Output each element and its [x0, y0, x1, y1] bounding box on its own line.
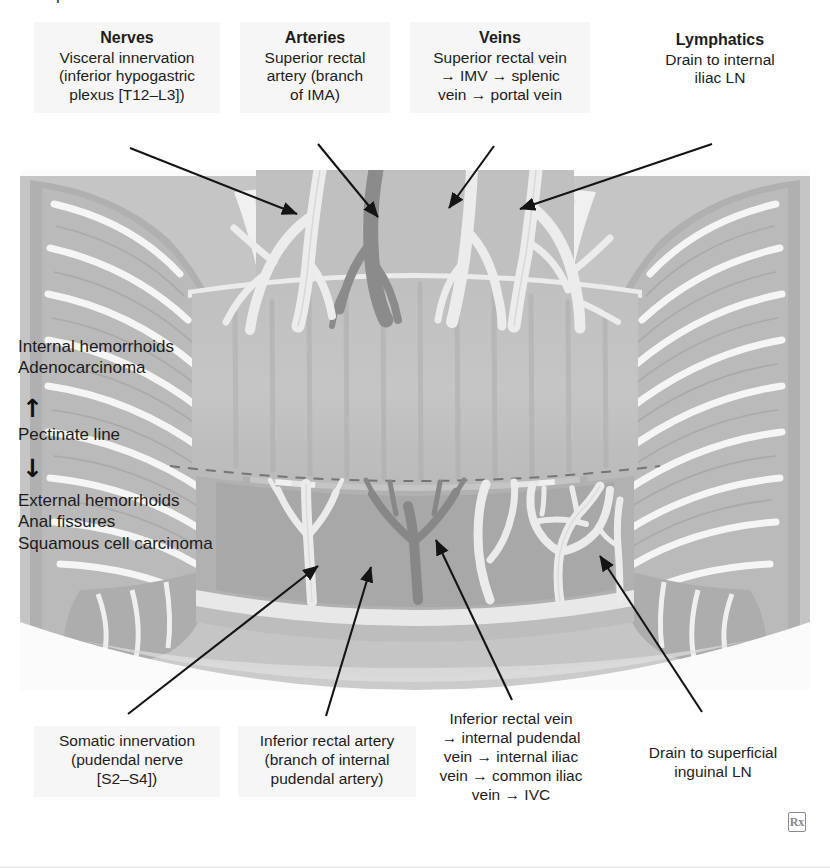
- figure-root: l: [0, 0, 830, 868]
- label-nerves: Nerves Visceral innervation (inferior hy…: [34, 22, 220, 113]
- label-inferior-rectal-artery-line-3: pudendal artery): [242, 770, 412, 789]
- label-inferior-rectal-vein-line-3: vein → internal iliac: [424, 748, 598, 767]
- annotation-anal-fissures: Anal fissures: [18, 511, 213, 532]
- label-somatic-innervation: Somatic innervation (pudendal nerve [S2–…: [34, 726, 220, 797]
- label-veins-heading: Veins: [414, 28, 586, 48]
- label-arteries-line-2: artery (branch: [244, 67, 386, 86]
- label-somatic-line-1: Somatic innervation: [38, 732, 216, 751]
- label-lymphatics-heading: Lymphatics: [634, 30, 806, 50]
- arrow-down-icon: ↓: [22, 456, 43, 481]
- label-veins-line-2: → IMV → splenic: [414, 67, 586, 86]
- label-arteries-line-3: of IMA): [244, 86, 386, 105]
- annotation-squamous-cell-carcinoma: Squamous cell carcinoma: [18, 533, 213, 554]
- label-lymphatics: Lymphatics Drain to internal iliac LN: [630, 24, 810, 96]
- anorectal-anatomy-illustration: [20, 170, 810, 690]
- label-somatic-line-2: (pudendal nerve: [38, 751, 216, 770]
- label-veins: Veins Superior rectal vein → IMV → splen…: [410, 22, 590, 113]
- label-superficial-inguinal-line-2: inguinal LN: [624, 763, 802, 782]
- label-nerves-line-3: plexus [T12–L3]): [38, 86, 216, 105]
- label-inferior-rectal-vein-line-2: → internal pudendal: [424, 729, 598, 748]
- annotation-external-hemorrhoids: External hemorrhoids: [18, 490, 213, 511]
- label-somatic-line-3: [S2–S4]): [38, 770, 216, 789]
- label-superficial-inguinal-line-1: Drain to superficial: [624, 744, 802, 763]
- label-nerves-line-2: (inferior hypogastric: [38, 67, 216, 86]
- label-veins-line-1: Superior rectal vein: [414, 49, 586, 68]
- clipped-heading-text: l: [56, 0, 356, 10]
- label-inferior-rectal-vein-line-4: vein → common iliac: [424, 767, 598, 786]
- arrow-up-icon: ↑: [22, 396, 43, 421]
- annotation-pectinate-line: Pectinate line: [18, 424, 120, 445]
- label-inferior-rectal-artery-line-2: (branch of internal: [242, 751, 412, 770]
- label-inferior-rectal-artery: Inferior rectal artery (branch of intern…: [238, 726, 416, 797]
- label-nerves-heading: Nerves: [38, 28, 216, 48]
- label-arteries: Arteries Superior rectal artery (branch …: [240, 22, 390, 113]
- annotation-adenocarcinoma: Adenocarcinoma: [18, 357, 174, 378]
- rx-watermark-icon: Rx: [788, 812, 806, 832]
- label-arteries-line-1: Superior rectal: [244, 49, 386, 68]
- label-inferior-rectal-vein-line-5: vein → IVC: [424, 786, 598, 805]
- label-inferior-rectal-vein: Inferior rectal vein → internal pudendal…: [420, 704, 602, 813]
- label-inferior-rectal-vein-line-1: Inferior rectal vein: [424, 710, 598, 729]
- label-lymphatics-line-2: iliac LN: [634, 69, 806, 88]
- label-nerves-line-1: Visceral innervation: [38, 49, 216, 68]
- label-lymphatics-line-1: Drain to internal: [634, 51, 806, 70]
- label-arteries-heading: Arteries: [244, 28, 386, 48]
- label-inferior-rectal-artery-line-1: Inferior rectal artery: [242, 732, 412, 751]
- label-veins-line-3: vein → portal vein: [414, 86, 586, 105]
- annotation-below-pectinate: External hemorrhoids Anal fissures Squam…: [18, 490, 213, 554]
- annotation-above-pectinate: Internal hemorrhoids Adenocarcinoma: [18, 336, 174, 379]
- label-superficial-inguinal-ln: Drain to superficial inguinal LN: [620, 738, 806, 790]
- annotation-internal-hemorrhoids: Internal hemorrhoids: [18, 336, 174, 357]
